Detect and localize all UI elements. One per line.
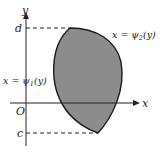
shaded-region <box>54 28 122 133</box>
right-curve-label: x = ψ2(y) <box>112 29 156 42</box>
x-axis-label: x <box>142 97 149 110</box>
upper-bound-label: d <box>15 22 22 35</box>
left-curve-label: x = ψ1(y) <box>3 75 47 88</box>
lower-bound-label: c <box>17 127 23 140</box>
origin-label: O <box>16 105 25 118</box>
x-axis-arrow-icon <box>133 100 140 106</box>
region-diagram: y x O d c x = ψ1(y) x = ψ2(y) <box>0 0 160 158</box>
y-axis-label: y <box>21 4 29 17</box>
